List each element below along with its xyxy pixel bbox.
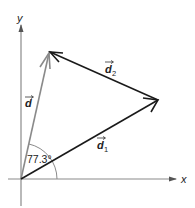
label-d1: d 1 xyxy=(97,137,108,155)
axes: x y xyxy=(8,12,187,206)
label-d2-subscript: 2 xyxy=(112,69,116,78)
x-axis-label: x xyxy=(180,173,187,185)
vector-d1 xyxy=(21,98,158,179)
label-d2: d 2 xyxy=(105,61,116,79)
label-d-text: d xyxy=(25,97,32,109)
vector-diagram: x y 77.3° d d 2 d 1 xyxy=(0,0,195,208)
label-d1-subscript: 1 xyxy=(104,145,108,154)
vector-d2 xyxy=(50,52,158,100)
label-d: d xyxy=(25,96,34,110)
y-axis-label: y xyxy=(16,12,24,24)
arrowhead-d xyxy=(40,53,50,69)
label-d1-text: d xyxy=(97,139,104,151)
label-d2-text: d xyxy=(105,63,112,75)
